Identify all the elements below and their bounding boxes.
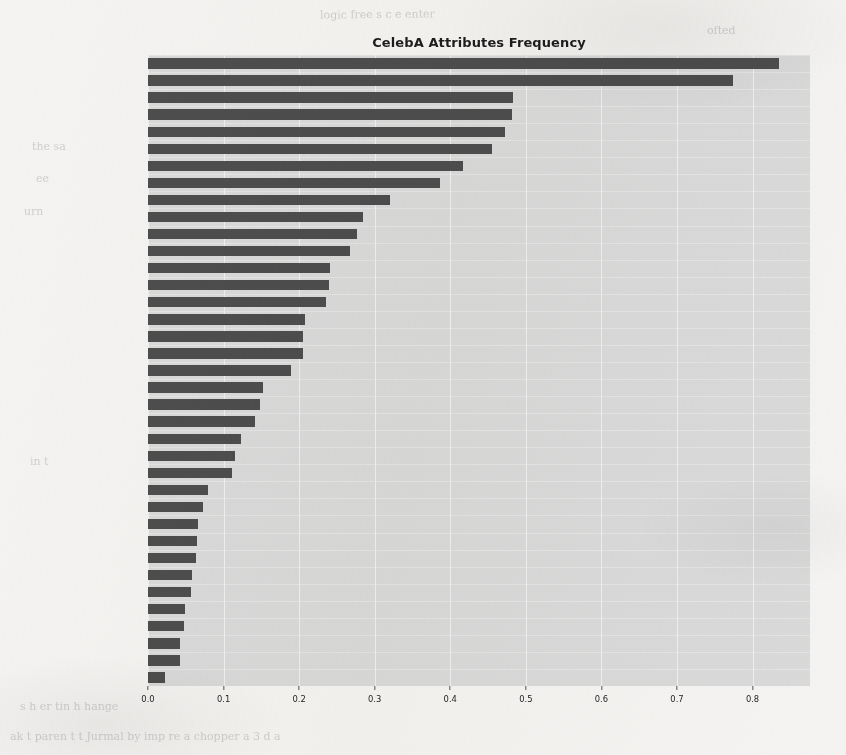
bar-bushy_eyebrows [148,416,255,426]
bar-rosy_cheeks [148,519,198,529]
x-tickmark [601,686,602,690]
bar-row: Bags_Under_Eyes [148,345,810,362]
bar-row: Bushy_Eyebrows [148,413,810,430]
ghost-mark: urn [24,205,43,218]
bar-row: Straight_Hair [148,311,810,328]
bar-straight_hair [148,314,305,324]
x-tick-0.1: 0.1 [217,686,230,704]
bar-arched_eyebrows [148,246,350,256]
bar-row: Bald [148,669,810,686]
bar-row: No_Beard [148,55,810,72]
bar-row: Goatee [148,550,810,567]
x-tick-0.8: 0.8 [746,686,759,704]
bar-chubby [148,570,192,580]
bar-big_lips [148,263,330,273]
bar-row: Receding_Hairline [148,481,810,498]
bar-row: Gray_Hair [148,635,810,652]
bar-wavy_hair [148,195,390,205]
bar-wearing_necktie [148,502,203,512]
x-tickmark [525,686,526,690]
x-tick-0.5: 0.5 [519,686,532,704]
bar-row: Blond_Hair [148,396,810,413]
bar-smiling [148,109,512,119]
ghost-mark: s h er tin h hange [20,700,118,713]
plot-area: No_BeardYoungMouth_Slightly_OpenSmilingW… [148,55,810,686]
x-ticklabel: 0.8 [746,694,759,704]
x-tick-0.2: 0.2 [292,686,305,704]
bar-gray_hair [148,638,180,648]
chart-title: CelebA Attributes Frequency [148,35,810,50]
x-tickmark [223,686,224,690]
x-tickmark [374,686,375,690]
bar-row: Chubby [148,567,810,584]
bar-bags_under_eyes [148,348,303,358]
bar-young [148,75,733,85]
ghost-mark: logic free s c e enter [320,7,435,21]
x-ticklabel: 0.6 [595,694,608,704]
bar-row: Mustache [148,652,810,669]
x-tickmark [676,686,677,690]
ghost-mark: in t [30,455,49,468]
bar-row: Heavy_Makeup [148,174,810,191]
bar-brown_hair [148,331,303,341]
bar-row: High_Cheekbones [148,140,810,157]
bar-wearing_lipstick [148,127,505,137]
bar-row: Double_Chin [148,618,810,635]
x-ticklabel: 0.7 [670,694,683,704]
x-axis: 0.00.10.20.30.40.50.60.70.8 [148,686,810,726]
x-ticklabel: 0.2 [292,694,305,704]
bar-row: Rosy_Cheeks [148,515,810,532]
bar-mustache [148,655,180,665]
x-tickmark [752,686,753,690]
bar-row: Wearing_Earrings [148,362,810,379]
bar-blond_hair [148,399,260,409]
x-tick-0.0: 0.0 [141,686,154,704]
bar-row: Big_Nose [148,294,810,311]
bar-row: Eyeglasses [148,533,810,550]
bar-row: Wavy_Hair [148,191,810,208]
bar-eyeglasses [148,536,197,546]
bar-row: Young [148,72,810,89]
bar-row: Pointy_Nose [148,226,810,243]
x-tickmark [450,686,451,690]
bar-row: Arched_Eyebrows [148,243,810,260]
bar-narrow_eyes [148,451,235,461]
bar-row: Wearing_Necklace [148,430,810,447]
bar-row: Sideburns [148,584,810,601]
bar-double_chin [148,621,184,631]
bar-mouth_slightly_open [148,92,513,102]
bar-big_nose [148,297,326,307]
x-tick-0.4: 0.4 [444,686,457,704]
ghost-mark: the sa [32,140,66,153]
x-tickmark [299,686,300,690]
bar-heavy_makeup [148,178,440,188]
bar-row: Male [148,157,810,174]
x-ticklabel: 0.4 [444,694,457,704]
bar-row: Mouth_Slightly_Open [148,89,810,106]
bar-male [148,161,463,171]
x-ticklabel: 0.5 [519,694,532,704]
x-tick-0.3: 0.3 [368,686,381,704]
x-ticklabel: 0.0 [141,694,154,704]
bar-row: Big_Lips [148,260,810,277]
x-tickmark [147,686,148,690]
bar-black_hair [148,280,329,290]
bar-row: Wearing_Necktie [148,498,810,515]
bar-row: Brown_Hair [148,328,810,345]
bar-bald [148,672,165,682]
bar-goatee [148,553,196,563]
bar-row: Black_Hair [148,277,810,294]
bar-row: Wearing_Hat [148,601,810,618]
bar-high_cheekbones [148,144,492,154]
x-ticklabel: 0.1 [217,694,230,704]
bar-wearing_hat [148,604,185,614]
bar-pointy_nose [148,229,357,239]
x-tick-0.6: 0.6 [595,686,608,704]
bar-row: Bangs [148,379,810,396]
bar-no_beard [148,58,779,68]
ghost-mark: ee [36,172,49,185]
bar-5_o_clock_shadow [148,468,232,478]
x-ticklabel: 0.3 [368,694,381,704]
bar-sideburns [148,587,191,597]
bar-receding_hairline [148,485,208,495]
